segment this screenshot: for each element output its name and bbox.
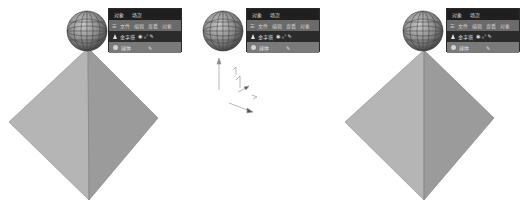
menu-file[interactable]: 文件	[458, 22, 468, 29]
object-flags[interactable]: ✎	[486, 45, 490, 51]
object-flags[interactable]: ◉ ⤢ ✎	[276, 33, 292, 40]
panel-menu: ☰ 文件 编辑 查看 对象	[447, 20, 519, 31]
object-name: 球体	[121, 44, 131, 51]
pyramid-right[interactable]	[345, 50, 494, 200]
object-name: 金字塔	[258, 33, 273, 40]
tab-objects[interactable]: 对象	[252, 11, 262, 18]
panel-tabs: 对象 场次	[447, 9, 519, 20]
panel-menu: ☰ 文件 编辑 查看 对象	[109, 20, 181, 31]
menu-file[interactable]: 文件	[120, 22, 130, 29]
hamburger-icon[interactable]: ☰	[112, 23, 116, 29]
panel-tabs: 对象 场次	[109, 9, 181, 20]
menu-edit[interactable]: 编辑	[472, 22, 482, 29]
pyramid-left[interactable]	[9, 48, 158, 200]
menu-object[interactable]: 对象	[300, 22, 310, 29]
sphere-icon	[113, 45, 118, 50]
object-name: 金字塔	[120, 33, 135, 40]
pyramid-icon	[451, 34, 455, 39]
sphere-right[interactable]	[403, 11, 443, 51]
object-row-pyramid[interactable]: 金字塔 ◉ ⤢ ✎	[247, 31, 319, 42]
hamburger-icon[interactable]: ☰	[450, 23, 454, 29]
object-manager-panel: 对象 场次 ☰ 文件 编辑 查看 对象 金字塔 ◉ ⤢ ✎ 球体 ✎	[246, 8, 320, 52]
axis-gizmo-icon	[217, 58, 257, 113]
sphere-icon	[451, 45, 456, 50]
menu-object[interactable]: 对象	[500, 22, 510, 29]
object-row-sphere[interactable]: 球体 ✎	[447, 42, 519, 53]
menu-object[interactable]: 对象	[162, 22, 172, 29]
object-row-pyramid[interactable]: 金字塔 ◉ ⤢ ✎	[109, 31, 181, 42]
panel-tabs: 对象 场次	[247, 9, 319, 20]
pyramid-icon	[251, 34, 255, 39]
tab-takes[interactable]: 场次	[132, 11, 142, 18]
object-row-sphere[interactable]: 球体 ✎	[109, 42, 181, 53]
object-manager-panel: 对象 场次 ☰ 文件 编辑 查看 对象 金字塔 ◉ ⤢ ✎ 球体 ✎	[446, 8, 520, 52]
object-flags[interactable]: ◉ ⤢ ✎	[476, 33, 492, 40]
panel-menu: ☰ 文件 编辑 查看 对象	[247, 20, 319, 31]
object-manager-panel: 对象 场次 ☰ 文件 编辑 查看 对象 金字塔 ◉ ⤢ ✎ 球体 ✎	[108, 8, 182, 52]
tab-objects[interactable]: 对象	[114, 11, 124, 18]
object-name: 金字塔	[458, 33, 473, 40]
menu-view[interactable]: 查看	[148, 22, 158, 29]
menu-edit[interactable]: 编辑	[134, 22, 144, 29]
tab-takes[interactable]: 场次	[470, 11, 480, 18]
pyramid-icon	[113, 34, 117, 39]
object-name: 球体	[259, 44, 269, 51]
menu-file[interactable]: 文件	[258, 22, 268, 29]
menu-edit[interactable]: 编辑	[272, 22, 282, 29]
tab-objects[interactable]: 对象	[452, 11, 462, 18]
menu-view[interactable]: 查看	[486, 22, 496, 29]
hamburger-icon[interactable]: ☰	[250, 23, 254, 29]
sphere-left[interactable]	[67, 11, 107, 51]
sphere-middle[interactable]	[203, 11, 243, 51]
sphere-icon	[251, 45, 256, 50]
menu-view[interactable]: 查看	[286, 22, 296, 29]
object-flags[interactable]: ✎	[148, 45, 152, 51]
object-name: 球体	[459, 44, 469, 51]
object-row-sphere[interactable]: 球体 ✎	[247, 42, 319, 53]
object-flags[interactable]: ◉ ⤢ ✎	[138, 33, 154, 40]
object-row-pyramid[interactable]: 金字塔 ◉ ⤢ ✎	[447, 31, 519, 42]
tab-takes[interactable]: 场次	[270, 11, 280, 18]
object-flags[interactable]: ✎	[286, 45, 290, 51]
